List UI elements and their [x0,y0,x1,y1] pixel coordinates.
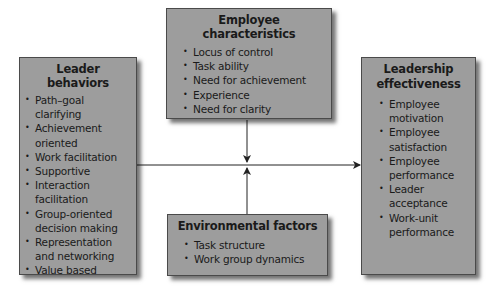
list-item: Need for achievement [183,73,325,87]
list-item: Task structure [184,238,321,252]
list-item: Employee satisfaction [379,125,470,153]
list-item: Employee performance [379,154,470,182]
list-item: Experience [183,88,325,102]
employee-characteristics-title: Employee characteristics [173,13,325,41]
leader-behaviors-list: Path–goal clarifying Achievement oriente… [25,93,131,278]
list-item: Leader acceptance [379,182,470,210]
list-item: Value based [25,263,131,277]
employee-characteristics-list: Locus of control Task ability Need for a… [173,45,325,116]
leadership-effectiveness-box: Leadership effectiveness Employee motiva… [361,57,476,275]
list-item: Employee motivation [379,97,470,125]
list-item: Work group dynamics [184,252,321,266]
employee-characteristics-box: Employee characteristics Locus of contro… [166,8,332,119]
list-item: Task ability [183,59,325,73]
list-item: Supportive [25,164,131,178]
list-item: Interaction facilitation [25,178,131,206]
environmental-factors-title: Environmental factors [174,219,321,233]
list-item: Achievement oriented [25,121,131,149]
list-item: Group-oriented decision making [25,207,131,235]
list-item: Locus of control [183,45,325,59]
environmental-factors-box: Environmental factors Task structure Wor… [167,214,328,276]
list-item: Need for clarity [183,102,325,116]
environmental-factors-list: Task structure Work group dynamics [174,238,321,266]
leadership-effectiveness-title: Leadership effectiveness [367,62,470,92]
leader-behaviors-box: Leader behaviors Path–goal clarifying Ac… [19,57,137,275]
list-item: Representation and networking [25,235,131,263]
leadership-effectiveness-list: Employee motivation Employee satisfactio… [367,97,470,239]
list-item: Work-unit performance [379,211,470,239]
list-item: Path–goal clarifying [25,93,131,121]
list-item: Work facilitation [25,150,131,164]
leader-behaviors-title: Leader behaviors [25,62,131,90]
